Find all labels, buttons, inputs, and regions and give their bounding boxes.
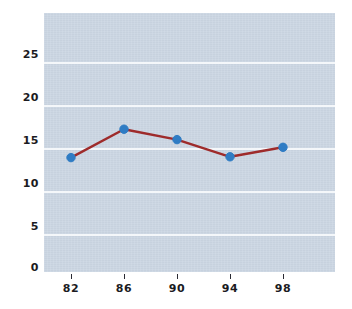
x-axis-tickmark-90	[177, 274, 178, 279]
gridline-20	[44, 105, 335, 107]
x-axis-tick-90: 90	[162, 283, 192, 295]
x-axis-tick-82: 82	[56, 283, 86, 295]
y-axis-tick-20: 20	[13, 92, 39, 103]
x-axis-tickmark-86	[124, 274, 125, 279]
line-chart: 25 20 15 10 5 0 82 86 90 94 98	[0, 0, 352, 309]
x-axis-tick-94: 94	[215, 283, 245, 295]
plot-area	[44, 13, 335, 272]
y-axis-tick-25: 25	[13, 49, 39, 60]
gridline-15	[44, 148, 335, 150]
y-axis-tick-10: 10	[13, 178, 39, 189]
x-axis-tick-86: 86	[109, 283, 139, 295]
y-axis-tick-0: 0	[13, 262, 39, 273]
gridline-10	[44, 191, 335, 193]
gridline-25	[44, 62, 335, 64]
x-axis-tickmark-82	[71, 274, 72, 279]
gridline-5	[44, 234, 335, 236]
y-axis-tick-15: 15	[13, 135, 39, 146]
x-axis-tickmark-98	[283, 274, 284, 279]
x-axis-tickmark-94	[230, 274, 231, 279]
x-axis-tick-98: 98	[268, 283, 298, 295]
y-axis-tick-5: 5	[13, 221, 39, 232]
